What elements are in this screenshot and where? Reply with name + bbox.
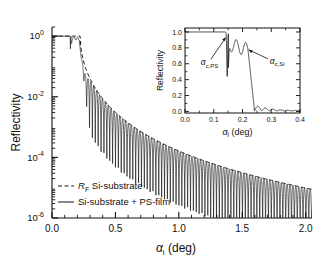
inset-y-tick-label: 0.6 (172, 60, 182, 67)
inset-y-tick-label: 0.2 (172, 92, 182, 99)
y-axis-ticks: 10010-210-410-6 (27, 27, 58, 223)
y-tick-label: 100 (30, 29, 45, 41)
axis-labels: Reflectivityαi (deg) (9, 93, 196, 257)
y-axis-label: Reflectivity (9, 93, 23, 151)
x-tick-label: 0.0 (45, 223, 59, 234)
inset-plot: 0.00.20.40.60.81.00.00.10.20.30.4Reflect… (155, 28, 305, 138)
x-axis-label: αi (deg) (156, 241, 196, 257)
inset-x-tick-label: 0.1 (209, 116, 219, 123)
inset-y-tick-label: 0.8 (172, 44, 182, 51)
figure-root: 10010-210-410-60.00.51.01.52.0Reflectivi… (0, 0, 328, 264)
x-tick-label: 1.5 (235, 223, 249, 234)
x-tick-label: 1.0 (172, 223, 186, 234)
inset-y-axis-label: Reflectivity (155, 49, 165, 91)
y-tick-label: 10-2 (27, 90, 44, 102)
x-tick-label: 2.0 (299, 223, 313, 234)
inset-x-tick-label: 0.3 (266, 116, 276, 123)
legend-label-rf: RF Si-substrate (78, 180, 142, 193)
inset-y-tick-label: 0.0 (172, 108, 182, 115)
x-tick-label: 0.5 (108, 223, 122, 234)
legend-label-film: Si-substrate + PS-film (78, 196, 170, 207)
reflectivity-figure: 10010-210-410-60.00.51.01.52.0Reflectivi… (0, 0, 328, 264)
inset-x-tick-label: 0.0 (180, 116, 190, 123)
inset-x-tick-label: 0.4 (295, 116, 305, 123)
inset-y-tick-label: 0.4 (172, 76, 182, 83)
inset-frame (185, 28, 300, 113)
y-tick-label: 10-4 (27, 150, 44, 162)
y-tick-label: 10-6 (27, 211, 44, 223)
inset-x-tick-label: 0.2 (238, 116, 248, 123)
inset-x-axis-label: αi (deg) (222, 127, 252, 138)
legend: RF Si-substrateSi-substrate + PS-film (58, 180, 170, 207)
inset-y-tick-label: 1.0 (172, 29, 182, 36)
x-axis-ticks: 0.00.51.01.52.0 (45, 212, 313, 234)
